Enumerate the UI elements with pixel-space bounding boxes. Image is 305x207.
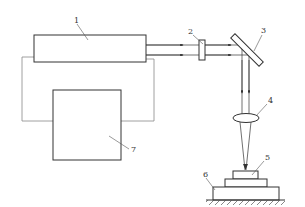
- focusing-lens: [233, 114, 259, 123]
- label-2: 2: [188, 27, 193, 36]
- mirror: [231, 34, 264, 67]
- laser-beam: [146, 45, 251, 170]
- label-3: 3: [261, 26, 266, 35]
- label-7: 7: [131, 145, 136, 154]
- label-4: 4: [268, 96, 273, 105]
- base-plate: [225, 179, 267, 187]
- power-supply-box: [53, 90, 121, 160]
- laser-box: [34, 35, 146, 62]
- worktable: [213, 187, 279, 200]
- label-6: 6: [203, 170, 208, 179]
- laser-system-diagram: 1 7 2 3 4 5 6: [0, 0, 305, 207]
- label-1: 1: [74, 16, 79, 25]
- label-5: 5: [265, 153, 270, 162]
- ground-hatch: [206, 200, 285, 205]
